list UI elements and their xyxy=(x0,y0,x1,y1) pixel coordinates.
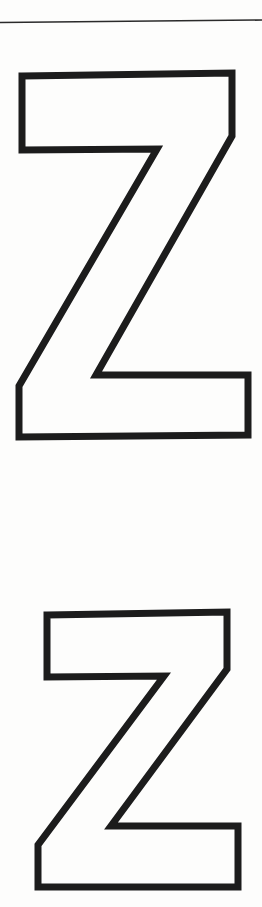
worksheet-page xyxy=(0,0,262,907)
worksheet-canvas xyxy=(0,0,262,907)
